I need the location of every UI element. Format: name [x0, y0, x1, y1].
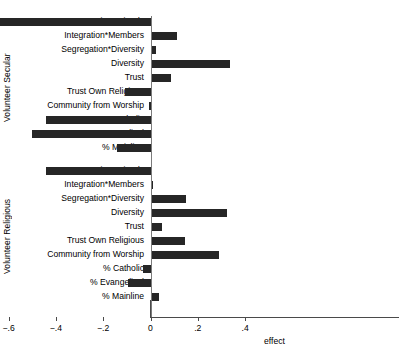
- bar: [46, 167, 150, 175]
- category-label: Segregation*Diversity: [61, 194, 144, 203]
- bar: [151, 209, 228, 217]
- category-label: Integration*Members: [64, 180, 144, 189]
- category-label: Trust: [125, 73, 144, 82]
- bar: [143, 265, 150, 273]
- bar: [0, 18, 150, 26]
- category-label: % Catholic: [103, 264, 144, 273]
- category-label: Trust Own Religious: [67, 236, 144, 245]
- x-tick-label: 0: [131, 323, 171, 333]
- x-tick: [103, 317, 104, 321]
- group-axis-title-volunteer-secular: Volunteer Secular: [0, 18, 14, 158]
- x-axis-line: [150, 317, 399, 318]
- group-axis-title-volunteer-religious: Volunteer Religious: [0, 166, 14, 306]
- x-tick: [198, 317, 199, 321]
- axis-left-stub: [150, 300, 151, 318]
- bar: [151, 32, 178, 40]
- category-label: Community from Worship: [47, 101, 144, 110]
- x-axis-title: effect: [150, 336, 399, 346]
- category-label: Trust: [125, 222, 144, 231]
- x-tick: [151, 317, 152, 321]
- bar: [117, 144, 150, 152]
- x-tick-label: .2: [178, 323, 218, 333]
- bar: [151, 237, 185, 245]
- category-label: Diversity: [111, 59, 144, 68]
- zero-reference-line: [151, 16, 152, 318]
- bar: [32, 130, 151, 138]
- bar-chart: Volunteer Secular Volunteer Religious In…: [0, 0, 413, 356]
- bar: [125, 88, 151, 96]
- category-label: Segregation*Diversity: [61, 45, 144, 54]
- x-tick-label: .4: [225, 323, 265, 333]
- category-label: % Mainline: [102, 292, 144, 301]
- category-label: Integration*Members: [64, 31, 144, 40]
- plot-area: [150, 16, 399, 316]
- bar: [151, 293, 159, 301]
- x-tick: [9, 317, 10, 321]
- bar: [151, 195, 186, 203]
- x-tick: [245, 317, 246, 321]
- bar: [151, 74, 172, 82]
- bar: [151, 251, 220, 259]
- bar: [128, 279, 150, 287]
- category-label: Community from Worship: [47, 250, 144, 259]
- bar: [151, 223, 163, 231]
- x-tick-label: −.4: [36, 323, 76, 333]
- x-tick-label: −.6: [0, 323, 29, 333]
- x-tick-label: −.2: [83, 323, 123, 333]
- x-tick: [56, 317, 57, 321]
- bar: [46, 116, 150, 124]
- bar: [151, 60, 230, 68]
- category-label: Diversity: [111, 208, 144, 217]
